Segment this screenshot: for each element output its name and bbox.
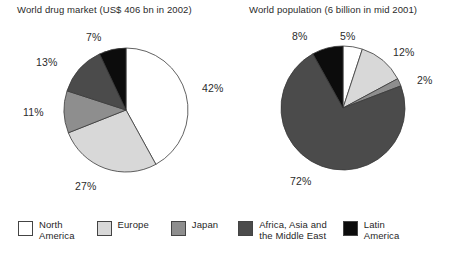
legend-label-north-america: North America [39, 220, 75, 241]
right-pct-latin-america: 8% [292, 30, 308, 42]
legend-swatch-japan [171, 221, 186, 236]
right-pie-chart [280, 45, 406, 171]
legend-swatch-africa-asia [238, 221, 253, 236]
left-pct-japan: 11% [23, 106, 44, 118]
legend-item-europe[interactable]: Europe [97, 220, 149, 236]
legend-swatch-latin-america [343, 221, 358, 236]
left-pct-africa-asia: 13% [36, 56, 58, 68]
right-pct-north-america: 5% [340, 30, 356, 42]
legend-item-africa-asia[interactable]: Africa, Asia and the Middle East [238, 220, 327, 241]
left-pie-chart [63, 47, 189, 173]
legend-item-japan[interactable]: Japan [171, 220, 218, 236]
left-pct-europe: 27% [75, 180, 97, 192]
legend-label-latin-america: Latin America [364, 220, 400, 241]
left-pct-north-america: 42% [202, 82, 224, 94]
legend-item-north-america[interactable]: North America [18, 220, 75, 241]
legend-swatch-north-america [18, 221, 33, 236]
right-pct-europe: 12% [393, 46, 415, 58]
right-pct-africa-asia: 72% [290, 175, 312, 187]
legend-label-europe: Europe [118, 220, 149, 231]
left-chart-title: World drug market (US$ 406 bn in 2002) [17, 4, 192, 15]
left-pct-latin-america: 7% [86, 31, 102, 43]
right-pct-japan: 2% [417, 74, 433, 86]
right-chart-title: World population (6 billion in mid 2001) [249, 4, 417, 15]
legend-item-latin-america[interactable]: Latin America [343, 220, 400, 241]
legend-label-japan: Japan [192, 220, 218, 231]
legend-label-africa-asia: Africa, Asia and the Middle East [259, 220, 327, 241]
legend: North America Europe Japan Africa, Asia … [18, 220, 448, 250]
legend-swatch-europe [97, 221, 112, 236]
pie-chart-figure: World drug market (US$ 406 bn in 2002) W… [0, 0, 454, 253]
